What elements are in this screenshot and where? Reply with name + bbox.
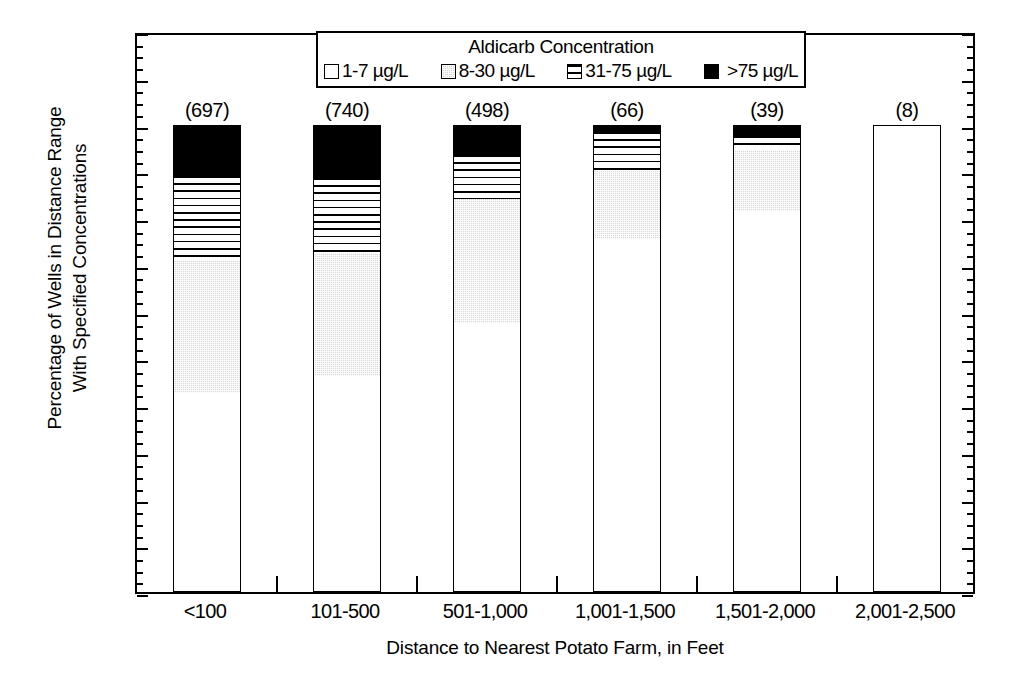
- bar-4-segment-8-30-g-l: [593, 171, 661, 239]
- y-tick-minor-right: [967, 279, 973, 281]
- y-tick-minor: [137, 233, 143, 235]
- bar-6-segment-1-7-g-l: [873, 125, 941, 593]
- y-tick-major-40: [137, 408, 148, 410]
- bar-2-segment-31-75-g-l: [313, 178, 381, 253]
- y-tick-minor-right: [967, 490, 973, 492]
- y-axis-title: Percentage of Wells in Distance Range Wi…: [42, 33, 92, 503]
- y-tick-minor-right: [967, 256, 973, 258]
- y-tick-minor: [137, 244, 143, 246]
- y-tick-major-0: [137, 595, 148, 597]
- y-tick-minor: [137, 431, 143, 433]
- x-tick-label-5: 1,501-2,000: [685, 600, 845, 623]
- legend-item-gt-75[interactable]: >75 µg/L: [704, 60, 798, 82]
- legend-item-31-75[interactable]: 31-75 µg/L: [567, 60, 671, 82]
- legend-item-1-7[interactable]: 1-7 µg/L: [324, 60, 408, 82]
- y-tick-major-70: [137, 268, 148, 270]
- y-tick-minor-right: [967, 57, 973, 59]
- legend-label-8-30: 8-30 µg/L: [459, 60, 535, 82]
- y-tick-minor: [137, 443, 143, 445]
- y-tick-minor: [137, 385, 143, 387]
- y-tick-minor-right: [967, 291, 973, 293]
- legend-label-gt-75: >75 µg/L: [727, 60, 798, 82]
- plot-area: 0102030405060708090100110120 (697)(740)(…: [135, 33, 975, 594]
- y-tick-minor: [137, 291, 143, 293]
- y-tick-minor: [137, 303, 143, 305]
- y-tick-minor: [137, 338, 143, 340]
- y-tick-minor-right: [967, 385, 973, 387]
- bar-5-segment--75-g-l: [733, 125, 801, 137]
- y-tick-major-10: [137, 548, 148, 550]
- y-tick-minor-right: [967, 431, 973, 433]
- y-tick-minor: [137, 46, 143, 48]
- y-tick-minor-right: [967, 396, 973, 398]
- bar-2-segment--75-g-l: [313, 125, 381, 179]
- bar-3-segment-1-7-g-l: [453, 323, 521, 592]
- y-tick-minor: [137, 186, 143, 188]
- y-tick-minor: [137, 116, 143, 118]
- y-tick-minor-right: [967, 373, 973, 375]
- y-tick-minor-right: [967, 198, 973, 200]
- y-tick-minor-right: [967, 443, 973, 445]
- category-separator-3: [556, 576, 558, 592]
- y-tick-minor: [137, 57, 143, 59]
- y-tick-minor: [137, 209, 143, 211]
- y-tick-major-110: [137, 81, 148, 83]
- legend-item-8-30[interactable]: 8-30 µg/L: [441, 60, 535, 82]
- chart-figure: Percentage of Wells in Distance Range Wi…: [0, 0, 1029, 681]
- legend-box: Aldicarb Concentration 1-7 µg/L 8-30 µg/…: [316, 31, 806, 88]
- y-tick-minor-right: [967, 303, 973, 305]
- category-separator-1: [276, 576, 278, 592]
- bar-count-label-1: (697): [147, 99, 267, 122]
- y-tick-minor-right: [967, 525, 973, 527]
- y-tick-minor: [137, 490, 143, 492]
- y-tick-minor-right: [967, 69, 973, 71]
- y-tick-minor: [137, 326, 143, 328]
- y-tick-minor-right: [967, 163, 973, 165]
- y-tick-major-30: [137, 455, 148, 457]
- bar-3-segment-8-30-g-l: [453, 199, 521, 323]
- y-tick-major-right-80: [962, 221, 973, 223]
- y-tick-major-right-10: [962, 548, 973, 550]
- y-tick-minor-right: [967, 513, 973, 515]
- y-tick-minor: [137, 139, 143, 141]
- legend-swatch-white-icon: [324, 64, 339, 79]
- x-tick-label-4: 1,001-1,500: [545, 600, 705, 623]
- y-tick-major-right-20: [962, 502, 973, 504]
- y-tick-minor-right: [967, 572, 973, 574]
- y-tick-minor: [137, 279, 143, 281]
- x-tick-label-3: 501-1,000: [405, 600, 565, 623]
- y-tick-minor-right: [967, 46, 973, 48]
- legend-label-31-75: 31-75 µg/L: [585, 60, 671, 82]
- y-tick-minor: [137, 537, 143, 539]
- y-tick-minor: [137, 92, 143, 94]
- y-tick-minor: [137, 198, 143, 200]
- x-tick-label-1: <100: [125, 600, 285, 623]
- bar-1-segment--75-g-l: [173, 125, 241, 176]
- y-tick-major-100: [137, 128, 148, 130]
- y-tick-minor: [137, 104, 143, 106]
- category-separator-5: [836, 576, 838, 592]
- y-tick-minor: [137, 560, 143, 562]
- y-tick-minor-right: [967, 209, 973, 211]
- y-axis-title-line-1: Percentage of Wells in Distance Range: [42, 33, 67, 503]
- bar-5-segment-8-30-g-l: [733, 150, 801, 211]
- y-tick-major-20: [137, 502, 148, 504]
- y-tick-major-120: [137, 34, 148, 36]
- y-tick-minor-right: [967, 466, 973, 468]
- bar-5-segment-1-7-g-l: [733, 211, 801, 592]
- y-tick-major-right-100: [962, 128, 973, 130]
- y-tick-minor-right: [967, 583, 973, 585]
- y-tick-minor: [137, 151, 143, 153]
- legend-swatch-black-icon: [704, 64, 719, 79]
- y-tick-minor-right: [967, 537, 973, 539]
- bar-3-segment--75-g-l: [453, 125, 521, 155]
- y-tick-minor-right: [967, 326, 973, 328]
- bar-4-segment--75-g-l: [593, 125, 661, 132]
- y-tick-minor-right: [967, 478, 973, 480]
- bar-count-label-4: (66): [567, 99, 687, 122]
- y-tick-minor-right: [967, 139, 973, 141]
- y-tick-minor: [137, 69, 143, 71]
- y-tick-minor: [137, 572, 143, 574]
- y-tick-major-right-70: [962, 268, 973, 270]
- y-tick-minor: [137, 525, 143, 527]
